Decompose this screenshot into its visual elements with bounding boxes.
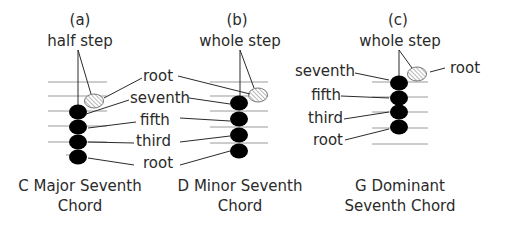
panel-b-note-third: [230, 128, 248, 143]
panel-b-note-root: [230, 144, 248, 159]
panel-b-interval-label: whole step: [199, 32, 281, 50]
panel-c-interval-leader: [399, 50, 412, 68]
panel-a-caption-line1: C Major Seventh: [18, 177, 141, 195]
panel-a-note-seventh: [69, 105, 87, 120]
panel-a-note-third: [69, 135, 87, 150]
seventh-chords-diagram: (a) half step root seventh fifth third: [0, 0, 507, 227]
panel-b-caption-line1: D Minor Seventh: [178, 177, 303, 195]
panel-a-note-fifth: [69, 120, 87, 135]
panel-c-label-third: third: [308, 109, 343, 127]
panel-a-tag: (a): [70, 11, 91, 29]
panel-c-note-third: [390, 105, 408, 120]
panel-a-interval-label: half step: [47, 32, 112, 50]
panel-c-label-root-upper: root: [450, 59, 480, 77]
panel-c-note-fifth: [390, 91, 408, 106]
panel-c-hatched-root-note: [408, 67, 427, 81]
panel-c-label-root-lower: root: [313, 131, 343, 149]
panel-a-label-root-upper: root: [143, 67, 173, 85]
panel-c-interval-label: whole step: [359, 32, 441, 50]
panel-a-hatched-root-note: [85, 94, 104, 108]
panel-b-tag: (b): [226, 11, 247, 29]
panel-a-interval-leader: [78, 50, 91, 94]
panel-a: (a) half step: [47, 11, 142, 165]
panel-c: (c) whole step seventh fifth third root …: [295, 11, 480, 149]
panel-c-note-root: [390, 120, 408, 135]
panel-a-label-root-lower: root: [143, 154, 173, 172]
panel-c-label-fifth: fifth: [311, 86, 341, 104]
panel-b-note-seventh: [230, 96, 248, 111]
panel-a-label-seventh: seventh: [130, 89, 190, 107]
panel-a-label-fifth: fifth: [140, 111, 170, 129]
panel-b-note-fifth: [230, 112, 248, 127]
panel-a-note-root: [69, 150, 87, 165]
panel-b: (b) whole step: [178, 11, 281, 165]
panel-c-caption-line2: Seventh Chord: [344, 197, 455, 215]
panel-b-hatched-root-note: [249, 88, 268, 102]
panel-a-label-third: third: [136, 132, 171, 150]
panel-b-caption-line2: Chord: [218, 197, 263, 215]
panel-c-caption-line1: G Dominant: [355, 177, 445, 195]
panel-c-label-seventh: seventh: [295, 62, 355, 80]
panel-c-tag: (c): [388, 11, 408, 29]
panel-a-labels: root seventh fifth third root: [130, 67, 190, 172]
panel-c-note-seventh: [390, 76, 408, 91]
panel-a-caption-line2: Chord: [58, 197, 103, 215]
